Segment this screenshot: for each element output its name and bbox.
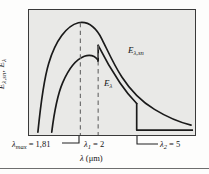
y-axis-symbol-2: E [0, 62, 6, 68]
curve-label-e-lambda: Eλ [104, 78, 112, 89]
curve-label-e-lambda-sn-subscript: λ,sn [134, 49, 144, 56]
bottom-divider-rule [0, 168, 209, 169]
tick-label-lambda-max-value: = 1,81 [27, 139, 51, 149]
plot-frame: Eλ,sn Eλ [28, 9, 196, 136]
curve-label-e-lambda-sn: Eλ,sn [128, 45, 144, 56]
tick-label-lambda-1: λ1 = 2 [84, 139, 104, 150]
y-axis-subscript-1: λ,sn [0, 72, 7, 83]
tick-label-lambda-max-subscript: max [16, 143, 27, 150]
y-axis-separator: , [0, 68, 6, 73]
curve-e-lambda-segment-1 [52, 55, 98, 132]
y-axis-subscript-2: λ [0, 59, 7, 62]
leader-line-lambda-2 [137, 136, 158, 144]
x-axis-symbol: λ [80, 153, 84, 163]
tick-label-lambda-2-value: = 5 [167, 139, 180, 149]
leader-line-lambda-max [62, 136, 79, 143]
curve-e-lambda-sn [38, 22, 191, 132]
x-axis-units: (μm) [86, 153, 103, 163]
y-axis-symbol-1: E [0, 83, 6, 89]
plot-canvas [29, 10, 195, 135]
tick-label-lambda-1-value: = 2 [91, 139, 104, 149]
curve-label-e-lambda-subscript: λ [110, 82, 113, 89]
y-axis-label: Eλ,sn, Eλ [0, 36, 7, 112]
x-axis-label: λ (μm) [80, 153, 103, 163]
tick-label-lambda-2: λ2 = 5 [160, 139, 180, 150]
tick-label-lambda-max: λmax = 1,81 [12, 139, 50, 150]
figure-root: Eλ,sn, Eλ Eλ,sn Eλ [0, 0, 209, 174]
